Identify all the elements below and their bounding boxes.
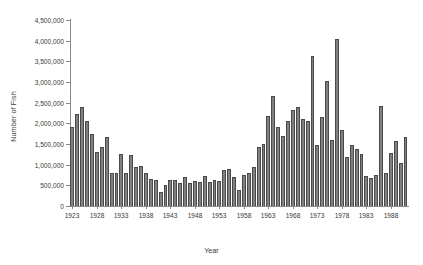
bar — [355, 149, 359, 206]
bar-chart: Number of Fish Year 0500,0001,000,0001,5… — [0, 0, 423, 265]
y-axis-tick — [66, 144, 70, 145]
y-axis-tick-label: 2,000,000 — [35, 119, 64, 128]
bar — [281, 136, 285, 206]
bar — [394, 141, 398, 206]
bar — [110, 173, 114, 206]
x-axis-tick — [195, 206, 196, 209]
bar — [213, 180, 217, 206]
bar — [276, 127, 280, 206]
bar — [129, 155, 133, 206]
y-axis-tick-label: 1,500,000 — [35, 140, 64, 149]
bar — [286, 121, 290, 206]
y-axis-tick-label: 3,000,000 — [35, 78, 64, 87]
bar — [75, 114, 79, 206]
bar — [374, 175, 378, 206]
y-axis-tick-label: 4,000,000 — [35, 37, 64, 46]
bar — [164, 185, 168, 206]
bar — [301, 119, 305, 206]
bar — [369, 178, 373, 206]
x-axis-tick-label: 1988 — [376, 212, 406, 219]
bar — [188, 183, 192, 206]
x-axis-tick — [170, 206, 171, 209]
bar — [237, 190, 241, 206]
bar — [320, 117, 324, 206]
y-axis-tick-label: 2,500,000 — [35, 99, 64, 108]
bar — [266, 116, 270, 206]
bar — [134, 167, 138, 206]
bar — [100, 147, 104, 206]
bar — [105, 137, 109, 206]
bar — [340, 130, 344, 206]
x-axis-tick — [268, 206, 269, 209]
bar — [154, 180, 158, 206]
bar — [364, 176, 368, 206]
bar — [389, 153, 393, 206]
bar — [80, 107, 84, 206]
bar — [149, 179, 153, 206]
bar — [95, 152, 99, 206]
y-axis-title: Number of Fish — [9, 57, 18, 177]
bar — [227, 169, 231, 206]
y-axis-tick — [66, 103, 70, 104]
bar — [252, 167, 256, 206]
bar — [257, 147, 261, 206]
bar — [242, 175, 246, 206]
bar — [335, 39, 339, 206]
bar — [330, 140, 334, 206]
bar — [178, 183, 182, 206]
bar — [311, 56, 315, 206]
bar — [144, 173, 148, 206]
bar — [247, 173, 251, 206]
y-axis-tick — [66, 82, 70, 83]
bar — [325, 81, 329, 206]
y-axis-tick — [66, 41, 70, 42]
y-axis-tick — [66, 61, 70, 62]
bar — [124, 173, 128, 206]
bar — [193, 181, 197, 206]
bar — [159, 192, 163, 206]
y-axis-tick — [66, 20, 70, 21]
bar — [119, 154, 123, 206]
x-axis-tick — [391, 206, 392, 209]
x-axis-tick — [366, 206, 367, 209]
bar — [198, 182, 202, 206]
bar — [350, 145, 354, 206]
bar — [208, 182, 212, 206]
x-axis-tick — [244, 206, 245, 209]
bar — [271, 96, 275, 206]
bar — [384, 173, 388, 206]
x-axis-tick — [121, 206, 122, 209]
bar — [183, 177, 187, 206]
bar — [399, 163, 403, 206]
bar — [315, 145, 319, 206]
x-axis-tick — [146, 206, 147, 209]
bar — [168, 180, 172, 206]
bar — [296, 107, 300, 206]
x-axis-tick — [342, 206, 343, 209]
y-axis-tick-label: 500,000 — [40, 181, 64, 190]
x-axis-tick — [72, 206, 73, 209]
bar — [217, 181, 221, 206]
x-axis-tick — [317, 206, 318, 209]
bar — [291, 110, 295, 206]
y-axis-tick — [66, 165, 70, 166]
bar — [360, 154, 364, 206]
y-axis-tick — [66, 206, 70, 207]
y-axis-tick — [66, 185, 70, 186]
bar — [404, 137, 408, 206]
x-axis-tick — [219, 206, 220, 209]
bar — [90, 134, 94, 206]
bar — [203, 176, 207, 206]
bar — [222, 170, 226, 206]
y-axis-tick-label: 1,000,000 — [35, 161, 64, 170]
x-axis-tick — [293, 206, 294, 209]
y-axis-tick-label: 4,500,000 — [35, 16, 64, 25]
x-axis-tick — [97, 206, 98, 209]
bar — [232, 177, 236, 206]
bar — [345, 157, 349, 206]
bar — [85, 121, 89, 206]
bar — [70, 127, 74, 206]
bar — [173, 180, 177, 206]
bar — [115, 173, 119, 206]
plot-area — [70, 20, 408, 206]
